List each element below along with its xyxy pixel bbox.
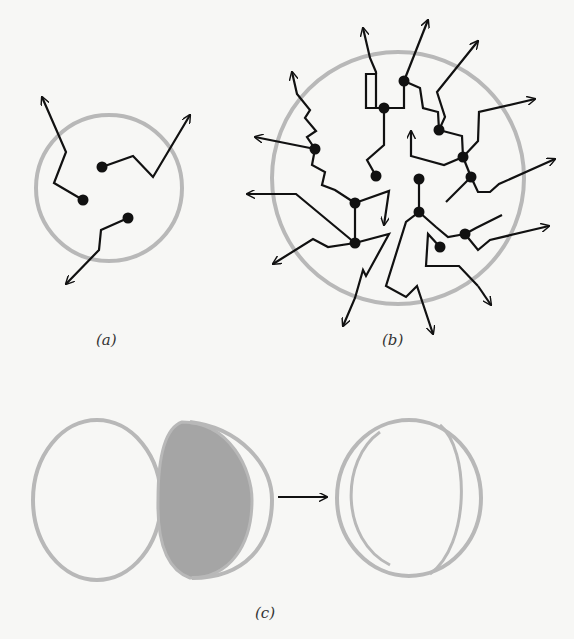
source-dot: [435, 242, 446, 253]
source-dot: [123, 213, 134, 224]
random-walk-path: [478, 286, 491, 305]
boundary-circle-b: [272, 52, 524, 304]
branch-node: [414, 207, 425, 218]
shaded-sphere: [158, 422, 252, 578]
random-walk-path: [386, 212, 433, 334]
random-walk-path: [411, 131, 463, 165]
source-dot: [371, 171, 382, 182]
panel-label-c: (c): [255, 604, 275, 622]
random-walk-path: [255, 137, 315, 149]
branch-node: [379, 103, 390, 114]
branch-node: [434, 125, 445, 136]
sphere-left: [33, 420, 161, 580]
source-dot: [97, 162, 108, 173]
random-walk-path: [273, 239, 355, 264]
panel-label-b: (b): [382, 331, 403, 349]
branch-node: [458, 152, 469, 163]
branch-node: [399, 76, 410, 87]
random-walk-path: [343, 234, 389, 326]
diagram-canvas: [0, 0, 574, 639]
random-walk-path: [363, 28, 376, 74]
boundary-circle-a: [36, 115, 182, 261]
panel-b-diagram: [247, 20, 555, 334]
panel-label-a: (a): [96, 331, 117, 349]
source-dot: [414, 174, 425, 185]
random-walk-path: [437, 41, 478, 130]
branch-node: [466, 172, 477, 183]
random-walk-path: [247, 194, 355, 243]
branch-node: [460, 229, 471, 240]
source-dot: [78, 195, 89, 206]
branch-node: [310, 144, 321, 155]
random-walk-path: [355, 191, 389, 225]
panel-a-diagram: [36, 97, 190, 284]
panel-c-diagram: [33, 420, 481, 580]
branch-node: [350, 238, 361, 249]
random-walk-path: [471, 159, 555, 192]
random-walk-path: [463, 99, 535, 157]
branch-node: [350, 198, 361, 209]
inner-membrane: [430, 425, 461, 574]
inner-membrane: [351, 432, 390, 565]
sphere-right: [337, 420, 481, 576]
